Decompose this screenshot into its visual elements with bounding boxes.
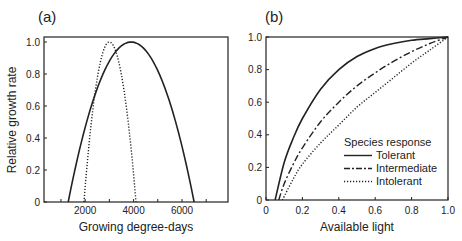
panel-a-y-tick-label: 1.0	[26, 37, 40, 48]
legend-label-tolerant: Tolerant	[376, 149, 415, 161]
panel-b-y-tick-label: 0.8	[248, 64, 262, 75]
panel-a-x-tick-label: 6000	[171, 205, 194, 216]
figure: (a) 200040006000 00.20.40.60.81.0 Growin…	[0, 0, 462, 241]
panel-b-y-tick-label: 1.0	[248, 32, 262, 43]
panel-b-series-intermediate	[279, 37, 448, 200]
panel-a-series-dotted	[84, 42, 136, 202]
panel-b-x-axis-label: Available light	[320, 220, 394, 234]
panel-b-x-tick-label: 1.0	[441, 205, 455, 216]
panel-a-series-solid	[68, 42, 194, 202]
panel-a-y-tick-label: 0.8	[26, 69, 40, 80]
legend-title: Species response	[344, 136, 431, 148]
panel-a-x-tick-label: 4000	[122, 205, 145, 216]
panel-b-label: (b)	[265, 8, 283, 25]
panel-a-lines	[68, 42, 194, 202]
panel-b-lines	[275, 37, 448, 200]
panel-a-y-tick-label: 0.2	[26, 165, 40, 176]
panel-a-x-tick-label: 2000	[74, 205, 97, 216]
panel-a-y-tick-label: 0.6	[26, 101, 40, 112]
panel-a-y-tick-label: 0	[34, 197, 40, 208]
panel-a-frame	[44, 37, 228, 202]
panel-a-y-axis-label: Relative growth rate	[5, 66, 19, 173]
panel-b-x-tick-label: 0	[263, 205, 269, 216]
panel-a-y-tick-label: 0.4	[26, 133, 40, 144]
panel-b-series-intolerant	[282, 37, 448, 200]
panel-b-x-tick-label: 0.6	[368, 205, 382, 216]
panel-b: (b) 00.20.40.60.81.0 00.20.40.60.81.0 Av…	[248, 8, 455, 234]
panel-b-x-tick-label: 0.4	[332, 205, 346, 216]
legend-label-intermediate: Intermediate	[376, 162, 437, 174]
panel-b-x-tick-label: 0.2	[295, 205, 309, 216]
panel-a-x-axis-label: Growing degree-days	[79, 220, 194, 234]
panel-b-legend: Species response TolerantIntermediateInt…	[344, 136, 437, 187]
panel-b-y-tick-label: 0.6	[248, 97, 262, 108]
panel-a: (a) 200040006000 00.20.40.60.81.0 Growin…	[5, 8, 228, 234]
panel-b-y-tick-label: 0	[256, 195, 262, 206]
panel-b-y-tick-label: 0.4	[248, 129, 262, 140]
panel-b-series-tolerant	[275, 37, 448, 200]
legend-label-intolerant: Intolerant	[376, 175, 422, 187]
panel-b-y-tick-label: 0.2	[248, 162, 262, 173]
panel-b-x-tick-label: 0.8	[405, 205, 419, 216]
panel-a-label: (a)	[38, 8, 56, 25]
